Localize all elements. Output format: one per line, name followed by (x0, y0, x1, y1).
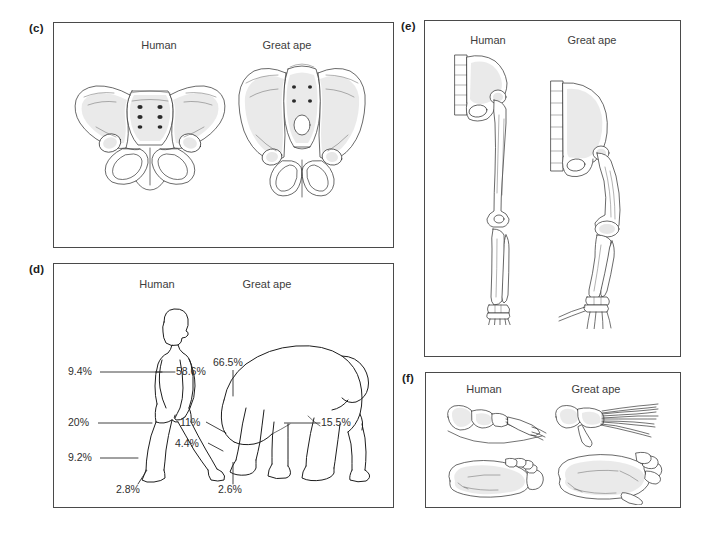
ape-leader-foot (230, 462, 238, 486)
panel-c-label-great-ape: Great ape (242, 39, 332, 51)
panel-f-foot-comparison: Human Great ape (425, 372, 681, 508)
ape-pct-upper-limb: 11% (180, 416, 200, 428)
ape-leader-forearm-hand (208, 442, 226, 454)
panel-c-pelvis: Human Great ape (53, 22, 394, 248)
human-leader-leg (100, 456, 140, 460)
human-hindlimb-skeleton (449, 53, 533, 325)
panel-f-label-human: Human (444, 383, 524, 395)
human-pct-head-trunk: 58.6% (176, 365, 206, 377)
human-leader-head-trunk (155, 370, 177, 374)
ape-leader-thigh (284, 421, 322, 425)
human-leader-foot (134, 470, 150, 486)
human-pct-upper-limb: 9.4% (68, 365, 92, 377)
human-leader-thigh (98, 421, 154, 425)
comparative-anatomy-figure: (c) Human Great ape (0, 0, 709, 533)
human-foot-soft-tissue (442, 457, 550, 503)
human-foot-skeleton (444, 403, 549, 449)
human-pelvis-illustration (70, 69, 230, 199)
great-ape-foot-skeleton (552, 401, 662, 449)
panel-letter-e: (e) (401, 20, 416, 32)
panel-d-label-human: Human (112, 278, 202, 290)
ape-pct-forearm-hand: 4.4% (175, 437, 199, 449)
great-ape-hindlimb-skeleton (547, 79, 647, 329)
panel-e-label-great-ape: Great ape (550, 34, 634, 46)
panel-letter-c: (c) (29, 22, 44, 34)
panel-e-label-human: Human (448, 34, 528, 46)
human-pct-thigh: 20% (68, 416, 89, 428)
great-ape-foot-soft-tissue (550, 451, 668, 505)
ape-leader-head-trunk (230, 370, 236, 398)
panel-letter-f: (f) (402, 372, 414, 384)
panel-f-label-great-ape: Great ape (554, 383, 638, 395)
human-pct-leg: 9.2% (68, 451, 92, 463)
great-ape-pelvis-illustration (232, 57, 372, 203)
ape-leader-upper-limb (206, 421, 228, 435)
panel-letter-d: (d) (29, 263, 44, 275)
panel-c-label-human: Human (114, 39, 204, 51)
panel-e-hindlimb-skeleton: Human Great ape (424, 20, 681, 357)
ape-pct-thigh: 15.5% (321, 416, 351, 428)
panel-d-mass-distribution: Human Great ape (53, 263, 394, 508)
panel-d-label-great-ape: Great ape (222, 278, 312, 290)
ape-pct-head-trunk: 66.5% (213, 356, 243, 368)
